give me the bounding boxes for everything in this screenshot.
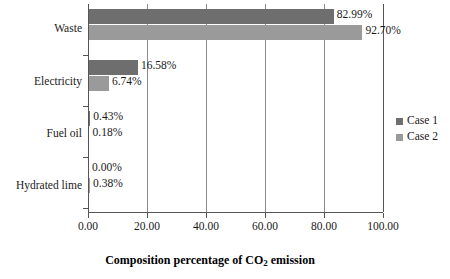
bar-value-label-case-2-waste: 92.70% (365, 25, 400, 37)
y-axis-tick-4 (83, 208, 89, 209)
x-axis-tick-60.00 (265, 213, 266, 218)
bar-value-label-case-1-electricity: 16.58% (141, 60, 176, 72)
x-axis-tick-100.00 (383, 213, 384, 218)
legend: Case 1 Case 2 (396, 113, 438, 145)
x-axis-title-suffix: emission (268, 253, 315, 267)
bar-value-label-case-1-fuel-oil: 0.43% (93, 111, 123, 123)
bar-case-1-electricity[interactable] (89, 60, 138, 75)
x-axis-title-text: Composition percentage of CO (105, 253, 263, 267)
legend-label-case-1: Case 1 (407, 115, 438, 127)
bar-value-label-case-2-hydrated-lime: 0.38% (93, 178, 123, 190)
x-axis-tick-20.00 (147, 213, 148, 218)
y-axis-tick-2 (83, 106, 89, 107)
x-axis-tick-80.00 (324, 213, 325, 218)
bar-chart: 82.99%92.70%16.58%6.74%0.43%0.18%0.00%0.… (0, 0, 450, 279)
legend-label-case-2: Case 2 (407, 131, 438, 143)
bar-value-label-case-2-electricity: 6.74% (112, 76, 142, 88)
x-axis-title: Composition percentage of CO2 emission (0, 253, 420, 268)
bar-case-1-waste[interactable] (89, 9, 334, 24)
bar-group-hydrated-lime: 0.00%0.38% (89, 157, 383, 208)
y-axis-label-waste: Waste (0, 23, 82, 35)
bar-group-fuel-oil: 0.43%0.18% (89, 106, 383, 157)
plot-area: 82.99%92.70%16.58%6.74%0.43%0.18%0.00%0.… (88, 4, 383, 213)
bar-value-label-case-2-fuel-oil: 0.18% (93, 127, 123, 139)
x-axis-tick-label-20.00: 20.00 (117, 221, 177, 233)
x-axis-tick-0.00 (88, 213, 89, 218)
x-axis-tick-label-60.00: 60.00 (235, 221, 295, 233)
y-axis-tick-3 (83, 157, 89, 158)
bar-value-label-case-1-hydrated-lime: 0.00% (92, 162, 122, 174)
y-axis-tick-1 (83, 55, 89, 56)
x-axis-tick-label-40.00: 40.00 (176, 221, 236, 233)
legend-item-case-1[interactable]: Case 1 (396, 113, 438, 129)
bar-case-1-fuel-oil[interactable] (89, 111, 90, 126)
bar-case-2-waste[interactable] (89, 25, 362, 40)
bar-group-electricity: 16.58%6.74% (89, 55, 383, 106)
bar-case-2-hydrated-lime[interactable] (89, 178, 90, 193)
legend-swatch-icon-case-2 (396, 134, 403, 141)
x-axis-tick-label-0.00: 0.00 (58, 221, 118, 233)
y-axis-label-hydrated-lime: Hydrated lime (0, 180, 82, 192)
x-axis-tick-40.00 (206, 213, 207, 218)
y-axis-label-electricity: Electricity (0, 76, 82, 88)
x-axis-title-subscript: 2 (263, 258, 268, 268)
bar-case-2-electricity[interactable] (89, 76, 109, 91)
bar-value-label-case-1-waste: 82.99% (337, 9, 372, 21)
x-axis-tick-label-80.00: 80.00 (294, 221, 354, 233)
legend-swatch-icon-case-1 (396, 118, 403, 125)
bar-group-waste: 82.99%92.70% (89, 4, 383, 55)
x-axis-tick-label-100.00: 100.00 (353, 221, 413, 233)
legend-item-case-2[interactable]: Case 2 (396, 129, 438, 145)
y-axis-label-fuel-oil: Fuel oil (0, 128, 82, 140)
